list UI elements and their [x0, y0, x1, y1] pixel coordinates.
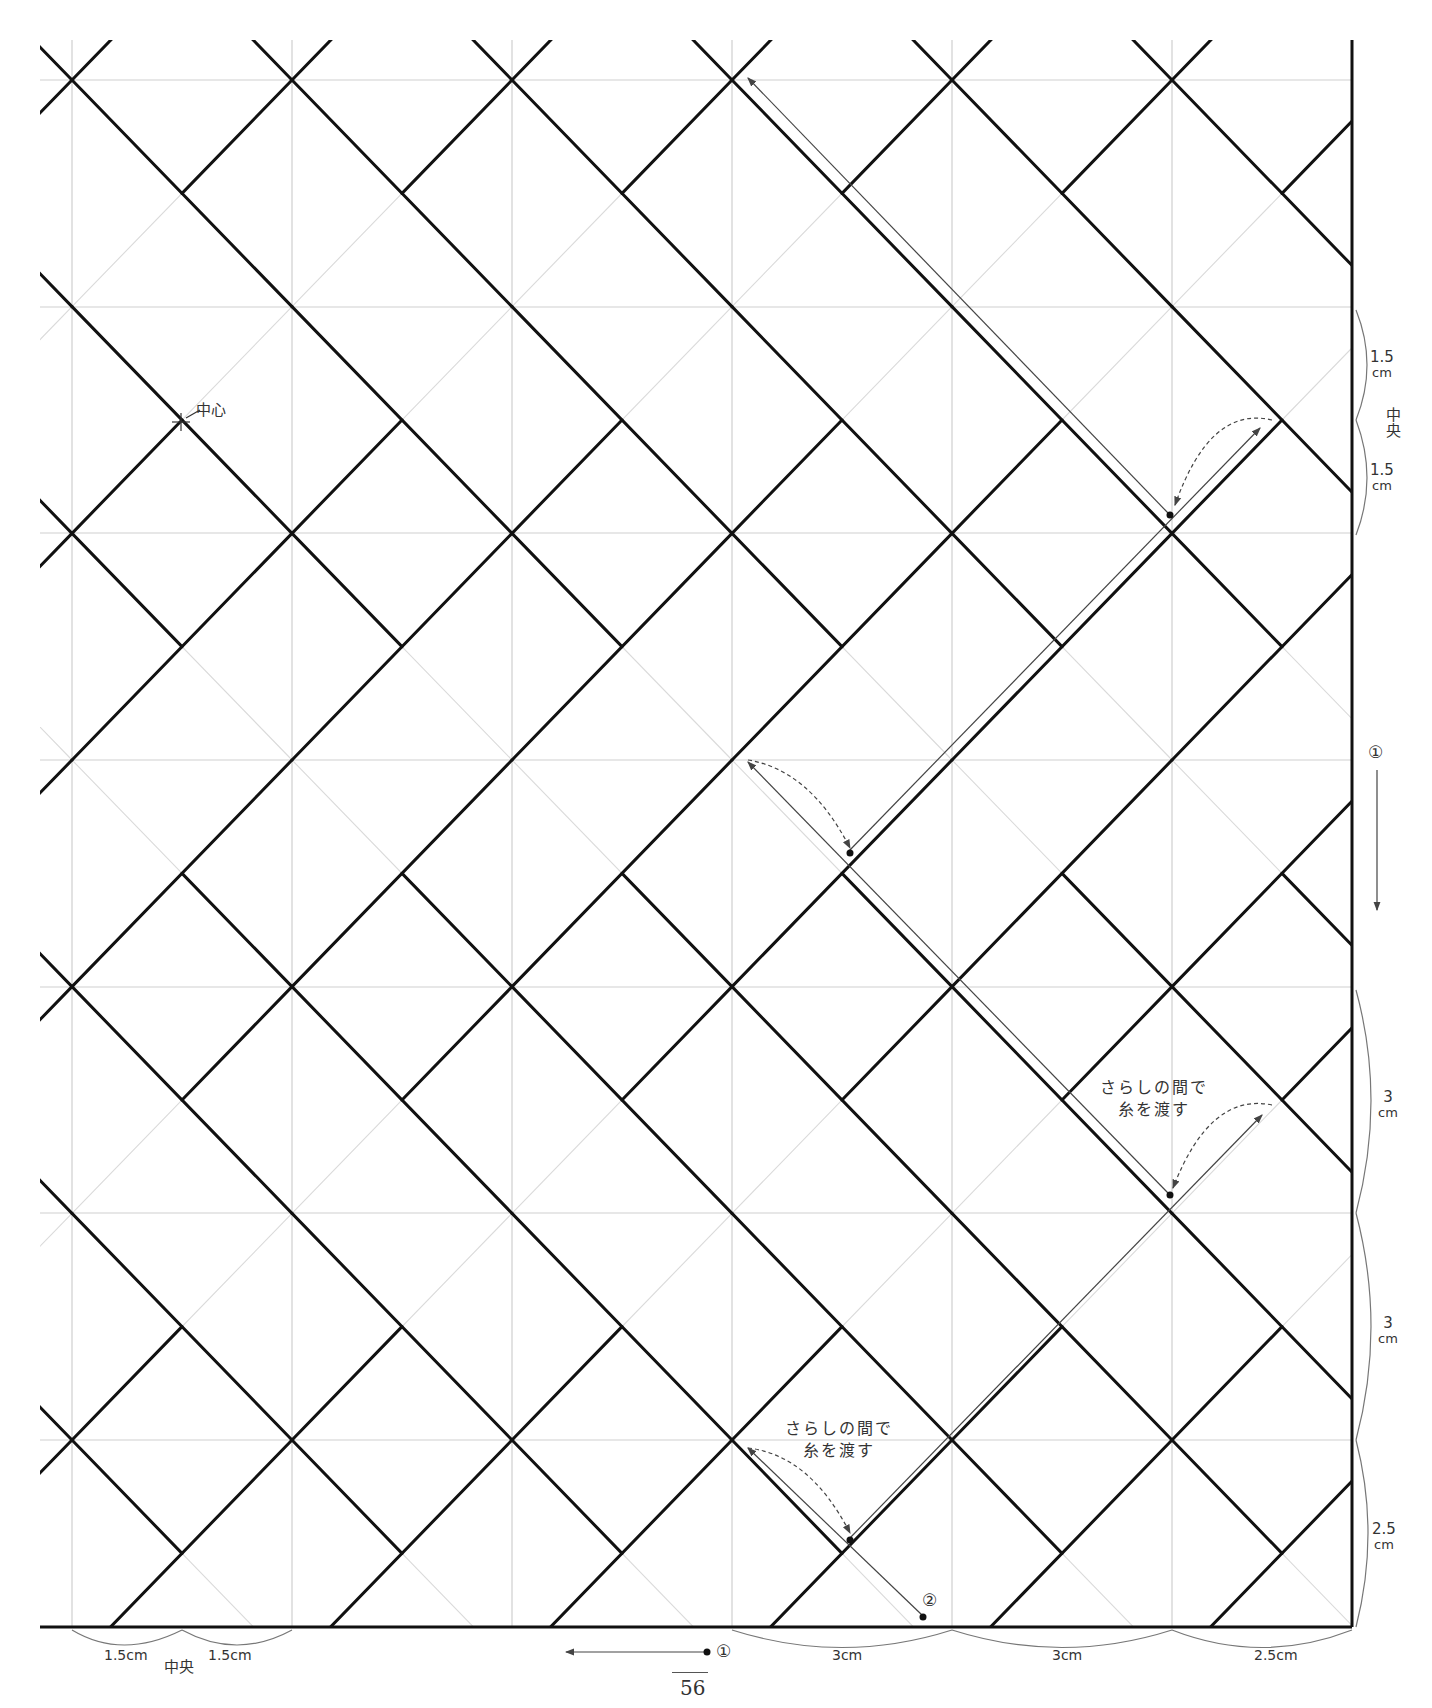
stitch-route	[566, 78, 1377, 1652]
dim-value: 3	[1383, 1088, 1393, 1106]
guide-diagonals	[0, 0, 1392, 1667]
dim-value: 2.5	[1372, 1520, 1396, 1538]
herringbone-pattern-diagram	[0, 0, 1432, 1708]
dimension-arcs-bottom	[72, 1630, 1352, 1648]
dim-bottom-5: 2.5cm	[1250, 1648, 1302, 1663]
dim-value: 1.5	[1370, 348, 1394, 366]
dim-bottom-4: 3cm	[1048, 1648, 1086, 1663]
dim-bottom-1: 1.5cm	[104, 1648, 148, 1663]
dim-unit: cm	[1378, 1106, 1398, 1120]
guide-grid	[40, 40, 1352, 1627]
dim-right-1: 1.5 cm	[1370, 350, 1394, 379]
dim-unit: cm	[1378, 1332, 1398, 1346]
center-label: 中心	[196, 403, 226, 419]
dim-value: 3	[1383, 1314, 1393, 1332]
dimension-arcs-right	[1356, 310, 1371, 1627]
dim-unit: cm	[1370, 366, 1394, 380]
page-number: 56	[680, 1676, 705, 1700]
note-cross-thread-2: さらしの間で 糸を渡す	[785, 1418, 893, 1461]
dim-bottom-3: 3cm	[828, 1648, 866, 1663]
dim-unit: cm	[1370, 479, 1394, 493]
dim-value: 1.5	[1370, 461, 1394, 479]
dim-bottom-2: 1.5cm	[208, 1648, 252, 1663]
dim-right-4: 3 cm	[1378, 1316, 1398, 1345]
stitch-lines	[0, 0, 1392, 1667]
middle-bottom-label: 中央	[164, 1660, 194, 1676]
page-number-rule	[672, 1672, 708, 1673]
step-2-label: ②	[922, 1590, 937, 1610]
note-line: 糸を渡す	[785, 1440, 893, 1462]
step-1-label-right: ①	[1368, 742, 1383, 762]
dim-unit: cm	[1372, 1538, 1396, 1552]
step-1-label-bottom: ①	[716, 1641, 731, 1661]
dim-right-3: 3 cm	[1378, 1090, 1398, 1119]
note-line: さらしの間で	[1100, 1077, 1208, 1099]
dim-right-2: 1.5 cm	[1370, 463, 1394, 492]
note-line: さらしの間で	[785, 1418, 893, 1440]
middle-right-label: 中央	[1384, 408, 1402, 440]
note-line: 糸を渡す	[1100, 1099, 1208, 1121]
dim-right-5: 2.5 cm	[1372, 1522, 1396, 1551]
note-cross-thread-1: さらしの間で 糸を渡す	[1100, 1077, 1208, 1120]
